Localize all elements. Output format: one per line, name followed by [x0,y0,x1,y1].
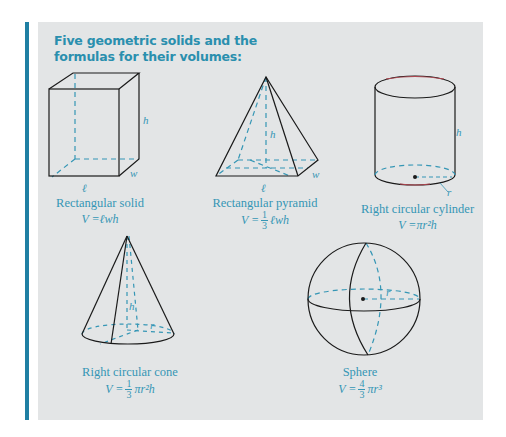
label-h: h [270,128,276,140]
formula-expr: πr²h [134,382,154,397]
caption-rectangular-solid: Rectangular solid [35,196,165,211]
caption-cylinder: Right circular cylinder [350,202,485,217]
formula-prefix: V = [398,218,416,233]
formula-prefix: V = [81,212,99,227]
label-r: r [150,319,155,331]
formula-expr: πr²h [416,218,436,233]
label-h: h [129,300,135,312]
formula-expr: ℓwh [270,213,289,228]
label-l: ℓ [261,182,266,194]
fraction: 4 3 [358,379,365,400]
formula-cone: V = 1 3 πr²h [70,379,190,400]
label-r: r [386,286,391,298]
label-h: h [143,114,149,126]
formula-prefix: V = [241,213,259,228]
formula-rectangular-pyramid: V = 1 3 ℓwh [200,210,330,231]
formula-rectangular-solid: V = ℓwh [35,212,165,227]
formula-sphere: V = 4 3 πr³ [310,379,410,400]
label-w: w [312,168,320,180]
label-r: r [447,186,452,198]
formula-prefix: V = [105,382,123,397]
fraction: 1 3 [125,379,132,400]
formula-cylinder: V = πr²h [350,218,485,233]
formula-expr: ℓwh [100,212,119,227]
formula-expr: πr³ [367,382,381,397]
label-w: w [130,167,138,179]
cone-figure: h r [82,236,174,344]
label-h: h [456,126,462,138]
fraction: 1 3 [261,210,268,231]
formula-prefix: V = [338,382,356,397]
sphere-figure: r [308,243,420,355]
cylinder-figure: h r [375,76,462,198]
rectangular-pyramid-figure: h w ℓ [216,77,320,194]
label-l: ℓ [82,182,87,194]
rectangular-solid-figure: h w ℓ [49,73,149,194]
